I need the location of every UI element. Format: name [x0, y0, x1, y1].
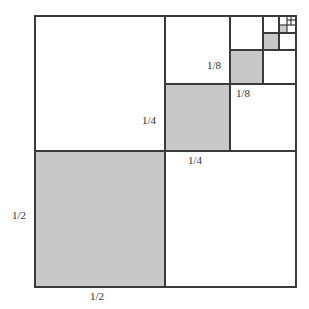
label-eighth-bottom: 1/8 — [236, 87, 250, 99]
label-quarter-left: 1/4 — [142, 114, 156, 126]
label-eighth-left: 1/8 — [207, 59, 221, 71]
shaded-quarter — [165, 84, 230, 151]
nested-squares-diagram — [0, 0, 309, 309]
shaded-sixteenth — [263, 33, 279, 50]
label-half-left: 1/2 — [12, 209, 26, 221]
label-half-bottom: 1/2 — [90, 290, 104, 302]
shaded-eighth — [230, 50, 263, 84]
label-quarter-bottom: 1/4 — [188, 154, 202, 166]
shaded-half — [35, 151, 165, 287]
shaded-thirtysecond — [279, 25, 287, 33]
